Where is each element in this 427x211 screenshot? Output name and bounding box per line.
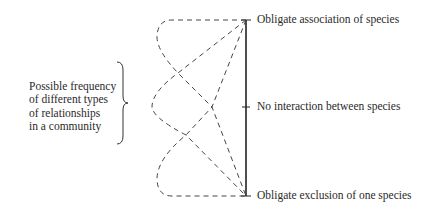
label-no-interaction: No interaction between species: [257, 100, 400, 112]
curve-association: [157, 20, 246, 196]
curly-brace-icon: [117, 62, 128, 144]
label-obligate-association: Obligate association of species: [257, 13, 399, 25]
curve-exclusion: [157, 20, 246, 196]
label-obligate-exclusion: Obligate exclusion of one species: [257, 189, 412, 201]
curve-no-interaction: [152, 20, 246, 196]
